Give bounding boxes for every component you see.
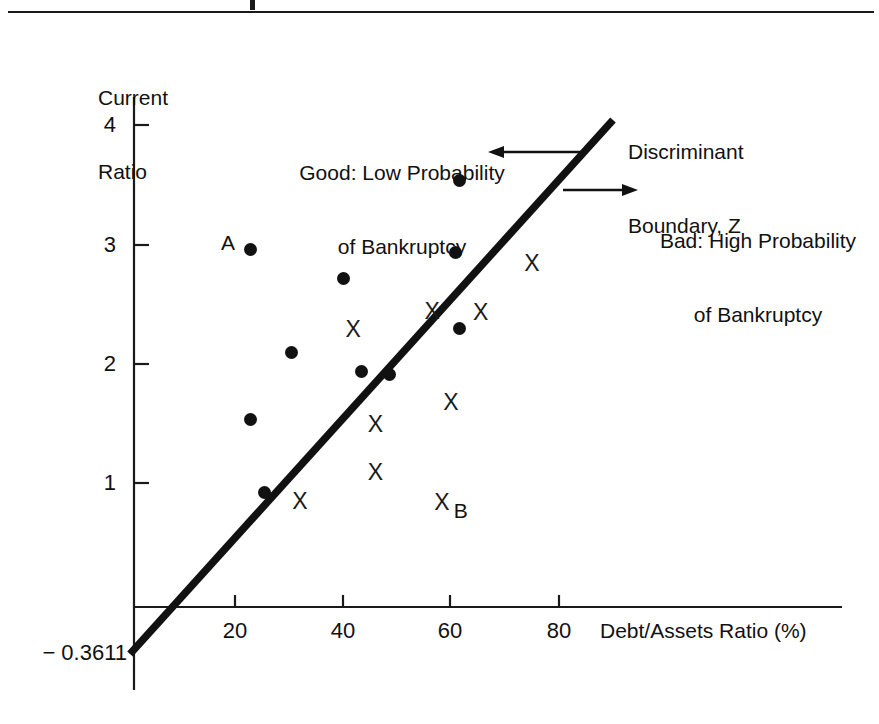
data-point-bad: X: [434, 488, 449, 515]
data-point-bad: X: [368, 411, 383, 438]
discriminant-analysis-figure: Current Ratio 4 3 2 1 − 0.3611 20 40 60 …: [0, 0, 879, 724]
data-point-good: [383, 368, 396, 381]
data-point-good: [285, 346, 298, 359]
data-point-good: [337, 272, 350, 285]
data-point-bad: X: [424, 298, 439, 325]
data-point-good: [355, 365, 368, 378]
data-point-good: [258, 486, 271, 499]
data-point-good: [453, 322, 466, 335]
data-point-good: [244, 243, 257, 256]
data-point-bad: X: [368, 459, 383, 486]
data-point-label-a: A: [221, 231, 235, 256]
data-point-bad: X: [346, 315, 361, 342]
data-point-bad: X: [473, 299, 488, 326]
data-point-good: [453, 174, 466, 187]
data-point-label-b: B: [454, 499, 468, 524]
data-point-bad: X: [443, 388, 458, 415]
data-point-good: [449, 246, 462, 259]
data-point-good: [244, 413, 257, 426]
data-point-bad: X: [292, 487, 307, 514]
data-markers-layer: AXXXXXXXXXB: [0, 0, 879, 724]
data-point-bad: X: [524, 250, 539, 277]
